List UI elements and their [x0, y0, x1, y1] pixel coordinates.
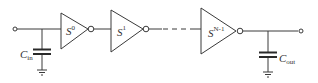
- inverter-bubble-icon: [88, 26, 94, 32]
- output-capacitor-label: Cout: [279, 52, 295, 66]
- inverter-chain-diagram: Cin S0 S1 SN-1 Cout: [0, 0, 318, 83]
- ground-icon: [263, 72, 273, 77]
- output-terminal-icon: [299, 29, 303, 33]
- inverter-stage-0: S0: [61, 13, 94, 49]
- inverter-bubble-icon: [237, 28, 243, 34]
- inverter-bubble-icon: [143, 26, 149, 32]
- output-capacitor: Cout: [259, 31, 295, 77]
- inverter-stage-1: S1: [111, 10, 149, 52]
- inverter-stage-n-1: SN-1: [201, 8, 243, 54]
- input-terminal-icon: [13, 27, 17, 31]
- ground-icon: [37, 70, 47, 75]
- input-capacitor: Cin: [20, 29, 51, 75]
- input-capacitor-label: Cin: [20, 48, 33, 62]
